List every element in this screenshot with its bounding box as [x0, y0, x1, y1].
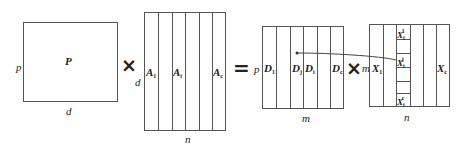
arrow-endpoint-dot-icon: [296, 52, 299, 55]
mapping-arrow: [0, 0, 462, 148]
